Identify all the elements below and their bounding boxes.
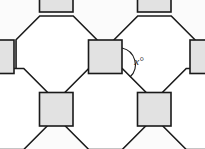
square-top-right [138,0,172,12]
square-bottom-left [40,93,74,127]
angle-label: x° [133,55,144,67]
tessellation-figure: x° [0,0,205,149]
octagon-lower-middle [65,69,146,149]
square-right-middle [190,40,205,74]
square-bottom-right [138,93,172,127]
tiling-canvas: x° [0,0,205,149]
square-left-middle [0,40,14,74]
square-center [89,40,123,74]
square-top-left [40,0,74,12]
